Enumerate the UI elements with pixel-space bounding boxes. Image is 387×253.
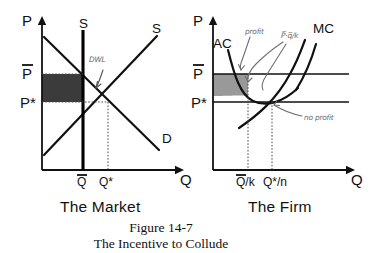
market-x-axis-label: Q (180, 171, 192, 188)
economics-figure: P Q P P* Q Q* S S D DWL The Market (0, 0, 387, 253)
figure-container: P Q P P* Q Q* S S D DWL The Market (0, 0, 387, 253)
firm-marginal-cost-label: MC (313, 21, 334, 36)
firm-ac-upper-branch (296, 44, 316, 90)
firm-average-cost-label: AC (213, 36, 232, 51)
firm-panel-title: The Firm (248, 198, 312, 215)
firm-profit-arrow-shaft (240, 37, 250, 70)
market-panel-title: The Market (60, 198, 141, 215)
market-p-bar-label: P (22, 65, 32, 82)
figure-title: The Incentive to Collude (94, 236, 229, 251)
market-price-tick-p-bar: P (22, 65, 33, 82)
firm-quantity-tick-q-bar-k: Q/k (236, 175, 256, 189)
market-q-star-label: Q* (99, 175, 113, 189)
figure-number: Figure 14-7 (129, 220, 193, 235)
figure-caption-block: Figure 14-7 The Incentive to Collude (94, 220, 229, 251)
firm-no-profit-leader (274, 105, 302, 116)
market-supply-label: S (152, 21, 161, 36)
firm-pq-over-k-annotation: P̅·q̅/k (281, 31, 299, 40)
market-quantity-tick-q-bar: Q (77, 175, 87, 189)
market-p-star-label: P* (20, 94, 36, 111)
firm-q-bar-k-label: Q/k (236, 175, 256, 189)
panel-market: P Q P P* Q Q* S S D DWL The Market (20, 12, 192, 215)
market-shaded-region (42, 74, 83, 102)
market-dwl-annotation: DWL (89, 55, 106, 64)
firm-profit-arrow-head (239, 65, 245, 71)
firm-no-profit-annotation: no profit (304, 113, 335, 122)
panel-firm: P Q P P* Q/k Q*/n AC MC profit P̅·q̅/k (191, 12, 363, 215)
firm-p-bar-label: P (193, 65, 203, 82)
firm-x-axis-label: Q (351, 171, 363, 188)
market-demand-label: D (162, 131, 172, 146)
market-cartel-supply-label: S (79, 16, 88, 31)
firm-p-star-label: P* (191, 94, 207, 111)
market-y-axis-arrow (38, 16, 46, 25)
firm-price-tick-p-bar: P (193, 65, 204, 82)
market-y-axis-label: P (22, 12, 32, 29)
firm-y-axis-arrow (209, 16, 217, 25)
firm-q-star-n-label: Q*/n (263, 175, 287, 189)
firm-pq-over-k-arrow-shaft-2 (262, 44, 286, 90)
firm-profit-annotation: profit (244, 27, 265, 36)
market-q-bar-label: Q (77, 175, 86, 189)
firm-y-axis-label: P (193, 12, 203, 29)
